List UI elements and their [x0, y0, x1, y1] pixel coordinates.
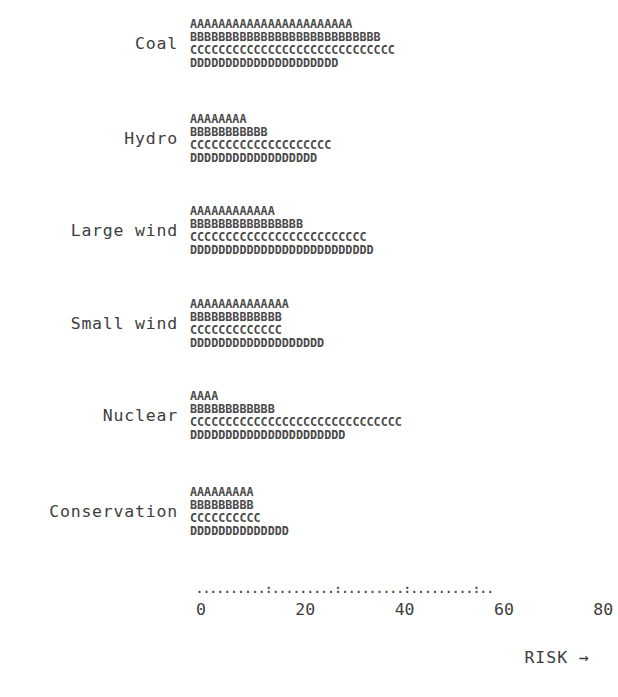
axis-tick-dots: ..........:.........:.........:.........…: [196, 582, 494, 596]
category-label-large-wind: Large wind: [0, 221, 190, 240]
bar-series-d: DDDDDDDDDDDDDDDDDDD: [190, 337, 324, 350]
category-group: Large windAAAAAAAAAAAABBBBBBBBBBBBBBBBCC…: [0, 205, 618, 257]
x-axis: ..........:.........:.........:.........…: [0, 582, 618, 642]
category-group: ConservationAAAAAAAAABBBBBBBBBCCCCCCCCCC…: [0, 486, 618, 538]
bar-series-d: DDDDDDDDDDDDDDDDDDDDD: [190, 57, 338, 70]
bar-series-d: DDDDDDDDDDDDDD: [190, 525, 289, 538]
category-group: HydroAAAAAAAABBBBBBBBBBBCCCCCCCCCCCCCCCC…: [0, 113, 618, 165]
bar-series-d: DDDDDDDDDDDDDDDDDDDDDD: [190, 429, 345, 442]
bar-stack: AAAAAAAABBBBBBBBBBBCCCCCCCCCCCCCCCCCCCCD…: [190, 113, 618, 165]
bar-stack: AAAAAAAAAAAABBBBBBBBBBBBBBBBCCCCCCCCCCCC…: [190, 205, 618, 257]
bar-series-d: DDDDDDDDDDDDDDDDDD: [190, 152, 317, 165]
ascii-bar-chart: CoalAAAAAAAAAAAAAAAAAAAAAAABBBBBBBBBBBBB…: [0, 0, 618, 697]
category-group: CoalAAAAAAAAAAAAAAAAAAAAAAABBBBBBBBBBBBB…: [0, 18, 618, 70]
category-label-conservation: Conservation: [0, 502, 190, 521]
bar-stack: AAAAAAAAABBBBBBBBBCCCCCCCCCCDDDDDDDDDDDD…: [190, 486, 618, 538]
bar-stack: AAAAAAAAAAAAAAAAAAAAAAABBBBBBBBBBBBBBBBB…: [190, 18, 618, 70]
axis-title-risk: RISK →: [0, 648, 590, 667]
bar-stack: AAAAAAAAAAAAAABBBBBBBBBBBBBCCCCCCCCCCCCC…: [190, 298, 618, 350]
bar-stack: AAAABBBBBBBBBBBBCCCCCCCCCCCCCCCCCCCCCCCC…: [190, 390, 618, 442]
category-label-hydro: Hydro: [0, 129, 190, 148]
axis-tick-labels: 0 20 40 60 80: [196, 600, 613, 620]
category-group: Small windAAAAAAAAAAAAAABBBBBBBBBBBBBCCC…: [0, 298, 618, 350]
category-label-nuclear: Nuclear: [0, 406, 190, 425]
category-group: NuclearAAAABBBBBBBBBBBBCCCCCCCCCCCCCCCCC…: [0, 390, 618, 442]
category-label-small-wind: Small wind: [0, 314, 190, 333]
bar-series-d: DDDDDDDDDDDDDDDDDDDDDDDDDD: [190, 244, 374, 257]
category-label-coal: Coal: [0, 34, 190, 53]
